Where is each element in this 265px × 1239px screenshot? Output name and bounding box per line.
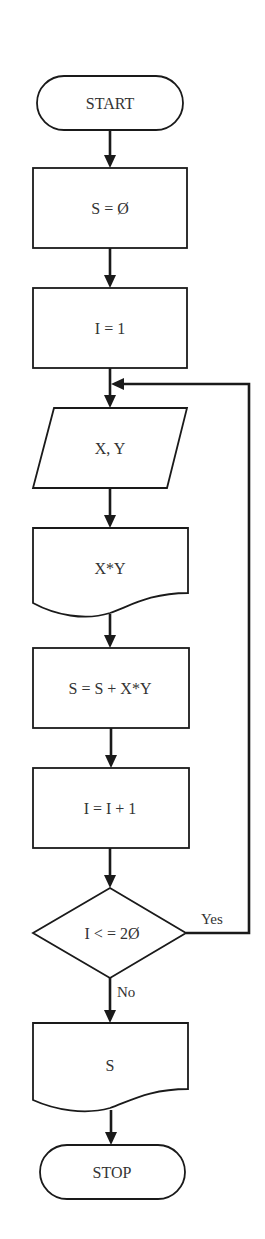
arrowhead-icon <box>104 515 116 528</box>
node-output-s: S <box>33 1023 188 1111</box>
arrowhead-icon <box>104 635 116 648</box>
node-label: S <box>106 1057 115 1074</box>
node-doc-xy: X*Y <box>33 528 188 617</box>
node-stop: STOP <box>40 1145 185 1199</box>
node-start: START <box>37 76 183 130</box>
arrowhead-icon <box>105 755 117 768</box>
node-label: X, Y <box>95 440 126 457</box>
edge-label-yes: Yes <box>201 911 223 927</box>
node-label: I = I + 1 <box>84 800 137 817</box>
arrowhead-icon <box>105 1132 117 1145</box>
arrowhead-icon <box>104 1010 116 1023</box>
node-label: S = S + X*Y <box>69 680 152 697</box>
arrowhead-icon <box>104 875 116 888</box>
node-label: I = 1 <box>95 320 125 337</box>
node-increment: I = I + 1 <box>33 768 189 848</box>
node-decision: I < = 2Ø <box>33 888 186 978</box>
node-label: X*Y <box>94 560 126 577</box>
arrowhead-icon <box>111 378 124 390</box>
node-input-xy: X, Y <box>33 408 187 488</box>
arrowhead-icon <box>104 395 116 408</box>
node-label: S = Ø <box>91 200 128 217</box>
node-accumulate: S = S + X*Y <box>33 648 189 728</box>
node-init-s: S = Ø <box>33 168 187 248</box>
node-init-i: I = 1 <box>33 288 187 368</box>
node-label: STOP <box>93 1164 132 1181</box>
edge-label-no: No <box>117 984 135 1000</box>
node-label: START <box>86 95 135 112</box>
arrowhead-icon <box>104 155 116 168</box>
flowchart-canvas: START S = Ø I = 1 X, Y X*Y S = S + X*Y I… <box>0 0 265 1239</box>
node-label: I < = 2Ø <box>85 925 140 942</box>
arrowhead-icon <box>104 275 116 288</box>
